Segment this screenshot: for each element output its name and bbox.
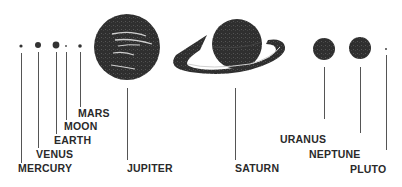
moon-icon	[65, 45, 67, 47]
earth-leader-line	[56, 52, 57, 134]
solar-system-diagram: MERCURY VENUS EARTH MOON MARS JUPITER SA…	[0, 0, 402, 187]
label-saturn: SATURN	[235, 162, 279, 174]
label-jupiter: JUPITER	[127, 162, 173, 174]
jupiter-icon	[94, 14, 160, 80]
label-venus: VENUS	[36, 148, 73, 160]
mars-leader-line	[80, 52, 81, 107]
label-mars: MARS	[78, 107, 110, 119]
label-earth: EARTH	[54, 134, 91, 146]
pluto-icon	[385, 48, 387, 50]
label-neptune: NEPTUNE	[309, 148, 361, 160]
earth-icon	[53, 42, 60, 49]
venus-icon	[35, 42, 41, 48]
mars-icon	[78, 44, 82, 48]
uranus-leader-line	[324, 67, 325, 119]
mercury-icon	[19, 44, 22, 47]
label-uranus: URANUS	[280, 133, 326, 145]
uranus-icon	[313, 38, 335, 60]
saturn-leader-line	[235, 88, 236, 160]
venus-leader-line	[38, 52, 39, 148]
label-mercury: MERCURY	[18, 162, 72, 174]
moon-leader-line	[66, 52, 67, 120]
pluto-leader-line	[386, 55, 387, 150]
neptune-icon	[349, 37, 371, 59]
saturn-icon	[173, 19, 285, 74]
jupiter-leader-line	[127, 88, 128, 160]
label-pluto: PLUTO	[350, 163, 386, 175]
neptune-leader-line	[360, 67, 361, 133]
mercury-leader-line	[21, 53, 22, 163]
label-moon: MOON	[64, 120, 97, 132]
